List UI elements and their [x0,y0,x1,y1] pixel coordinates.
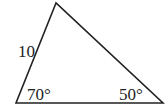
angle-right-label: 50° [119,86,143,103]
angle-left-label: 70° [27,86,51,103]
side-length-label: 10 [18,43,35,60]
